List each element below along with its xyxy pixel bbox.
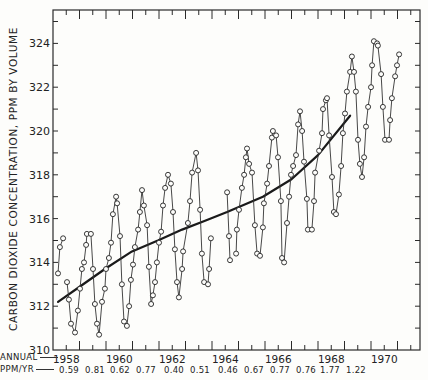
data-point [247,161,252,166]
data-point [349,54,354,59]
data-point [242,172,247,177]
data-point [82,260,87,265]
y-tick-label: 322 [29,81,50,94]
data-point [190,170,195,175]
data-point [300,129,305,134]
y-tick-label: 316 [29,213,50,226]
data-point [115,201,120,206]
data-point [380,104,385,109]
data-point [327,133,332,138]
data-point [234,251,239,256]
y-axis-title: CARBON DIOXIDE CONCENTRATION, PPM BY VOL… [0,8,28,350]
data-point [302,159,307,164]
data-point [185,221,190,226]
plot-axes [53,10,420,350]
annual-rate-value: 0.51 [190,365,210,375]
data-point [352,69,357,74]
data-point [393,74,398,79]
data-point [245,146,250,151]
data-point [66,297,71,302]
data-point [95,321,100,326]
data-point [56,271,61,276]
data-point [194,150,199,155]
data-point [97,332,102,337]
data-point [353,89,358,94]
data-point [188,199,193,204]
data-point [313,170,318,175]
data-point [198,207,203,212]
data-point [357,161,362,166]
y-tick-label: 320 [29,125,50,138]
data-point [225,190,230,195]
annual-rate-value: 0.40 [164,365,184,375]
data-point [131,262,136,267]
data-point [166,172,171,177]
data-point [171,210,176,215]
data-point [265,181,270,186]
data-point [207,267,212,272]
data-point [395,63,400,68]
data-point [330,175,335,180]
data-point [375,43,380,48]
data-point [370,63,375,68]
data-point [161,203,166,208]
data-point [360,175,365,180]
data-point [356,137,361,142]
annual-rate-value: 0.67 [244,365,264,375]
data-point [250,170,255,175]
data-point [317,148,322,153]
data-point [92,302,97,307]
data-point [88,231,93,236]
data-point [146,264,151,269]
data-point [157,240,162,245]
data-point [261,201,266,206]
data-point [57,245,62,250]
data-point [260,225,265,230]
data-point [79,267,84,272]
data-point [145,223,150,228]
data-point [325,96,330,101]
data-point [274,133,279,138]
data-point [102,286,107,291]
data-point [118,234,123,239]
data-point [234,227,239,232]
data-point [267,164,272,169]
data-point [366,104,371,109]
data-point [270,129,275,134]
data-point [389,96,394,101]
data-point [176,295,181,300]
data-point [119,282,124,287]
data-point [84,242,89,247]
data-point [196,168,201,173]
data-point [110,212,115,217]
trend-line [58,116,350,302]
data-point [334,212,339,217]
annual-rate-value: 1.77 [320,365,340,375]
rate-row-label: PPM/YR [0,364,54,374]
y-tick-label: 318 [29,169,50,182]
x-tick-label: 1962 [159,353,186,365]
annual-row-label: ANNUAL [0,352,58,362]
data-point [114,194,119,199]
data-point [276,155,281,160]
data-point [128,277,133,282]
data-point [140,188,145,193]
annual-rate-value: 0.46 [218,365,238,375]
data-point [106,256,111,261]
annual-rate-value: 0.62 [110,365,130,375]
x-tick-label: 1964 [212,353,239,365]
y-tick-label: 324 [29,37,50,50]
x-tick-label: 1960 [106,353,133,365]
data-point [228,258,233,263]
data-point [294,153,299,158]
data-point [141,203,146,208]
data-point [291,164,296,169]
data-point [91,267,96,272]
data-point [252,223,257,228]
data-point [69,321,74,326]
x-tick-label: 1966 [265,353,292,365]
data-point [298,109,303,114]
data-point [206,282,211,287]
data-point [180,267,185,272]
data-point [181,249,186,254]
